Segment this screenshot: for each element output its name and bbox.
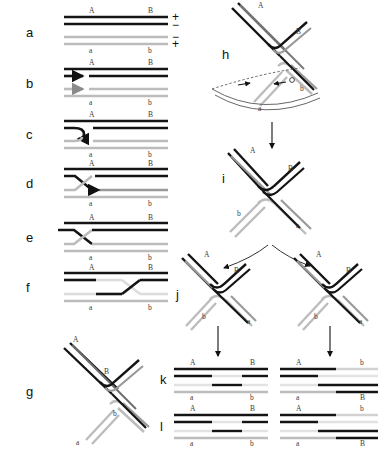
panel-e-label-A: A bbox=[89, 214, 94, 222]
panel-i-label-b: b bbox=[237, 210, 241, 218]
panel-h-label-a: a bbox=[258, 105, 261, 113]
panel-a-label-A: A bbox=[89, 7, 94, 15]
panel-label-d: d bbox=[26, 177, 33, 190]
panel-a-strands bbox=[64, 17, 168, 44]
panel-j-right-chi bbox=[294, 254, 368, 330]
panel-c-label-B: B bbox=[148, 111, 153, 119]
panel-d-label-b: b bbox=[148, 200, 152, 208]
panel-d-strands bbox=[64, 169, 168, 197]
panel-e-label-b: b bbox=[148, 254, 152, 262]
panel-i-label-a: a bbox=[296, 222, 299, 230]
panel-label-e: e bbox=[26, 231, 33, 244]
panel-g-label-A: A bbox=[73, 336, 78, 344]
panel-d-label-a: a bbox=[89, 200, 92, 208]
panel-k-left-label-a: a bbox=[190, 394, 193, 402]
panel-e-strands bbox=[58, 223, 168, 251]
panel-k-right-strands bbox=[280, 369, 378, 392]
panel-l-left-strands bbox=[174, 415, 268, 438]
panel-e-label-B: B bbox=[148, 214, 153, 222]
panel-label-f: f bbox=[26, 281, 30, 294]
panel-l-right-label-B: b bbox=[360, 405, 364, 413]
panel-d-label-A: A bbox=[89, 160, 94, 168]
panel-b-label-B: B bbox=[148, 59, 153, 67]
panel-c-label-a: a bbox=[89, 151, 92, 159]
panel-l-left-label-A: A bbox=[190, 405, 195, 413]
panel-c-strands bbox=[64, 121, 168, 148]
panel-a-label-B: B bbox=[148, 7, 153, 15]
panel-c-label-b: b bbox=[148, 151, 152, 159]
panel-g-label-B: B bbox=[104, 368, 109, 376]
panel-k-right-label-B: b bbox=[360, 359, 364, 367]
panel-label-i: i bbox=[222, 172, 225, 185]
panel-a-label-a: a bbox=[89, 47, 92, 55]
panel-f-strands bbox=[64, 273, 168, 301]
panel-b-label-A: A bbox=[89, 59, 94, 67]
recombination-figure: a b c d e f g h i j k l A B a b + − − + … bbox=[0, 0, 386, 451]
panel-l-left-label-a: a bbox=[190, 440, 193, 448]
panel-label-k: k bbox=[160, 373, 167, 386]
panel-i-label-A: A bbox=[250, 147, 255, 155]
panel-l-left-label-B: B bbox=[250, 405, 255, 413]
panel-g-chi bbox=[64, 343, 149, 444]
panel-h-label-b: b bbox=[300, 85, 304, 93]
panel-f-label-b: b bbox=[148, 304, 152, 312]
panel-l-right-strands bbox=[280, 415, 378, 438]
panel-label-c: c bbox=[26, 128, 33, 141]
panel-c-label-A: A bbox=[89, 111, 94, 119]
panel-j-left-label-A: A bbox=[204, 251, 209, 259]
panel-l-left-label-b: b bbox=[250, 440, 254, 448]
panel-i-label-B: B bbox=[288, 165, 293, 173]
panel-e-label-a: a bbox=[89, 254, 92, 262]
arrows-i-to-j bbox=[224, 245, 310, 268]
panel-label-g: g bbox=[26, 385, 33, 398]
panel-l-right-label-A: A bbox=[296, 405, 301, 413]
panel-g-label-b: b bbox=[113, 410, 117, 418]
panel-j-right-label-b: b bbox=[314, 313, 318, 321]
panel-h-label-B: B bbox=[296, 28, 301, 36]
panel-b-label-a: a bbox=[89, 99, 92, 107]
panel-f-label-A: A bbox=[89, 264, 94, 272]
figure-linework bbox=[0, 0, 386, 451]
panel-j-right-label-B: B bbox=[346, 267, 351, 275]
panel-label-b: b bbox=[26, 77, 33, 90]
panel-b-label-b: b bbox=[148, 99, 152, 107]
panel-label-l: l bbox=[160, 420, 163, 433]
panel-k-left-label-A: A bbox=[190, 359, 195, 367]
panel-l-right-label-b: B bbox=[360, 440, 365, 448]
panel-j-right-label-a: a bbox=[359, 318, 362, 326]
panel-j-left-chi bbox=[182, 254, 256, 330]
panel-l-right-label-a: a bbox=[296, 440, 299, 448]
panel-k-right-label-b: B bbox=[360, 394, 365, 402]
panel-a-label-b: b bbox=[148, 47, 152, 55]
panel-k-right-label-a: a bbox=[296, 394, 299, 402]
panel-j-left-label-a: a bbox=[247, 318, 250, 326]
panel-g-label-a: a bbox=[76, 439, 79, 447]
panel-k-left-strands bbox=[174, 369, 268, 392]
panel-d-label-B: B bbox=[148, 160, 153, 168]
panel-label-j: j bbox=[176, 288, 179, 301]
panel-h-label-A: A bbox=[258, 2, 263, 10]
polarity-sign-4: + bbox=[172, 38, 179, 50]
panel-label-a: a bbox=[26, 26, 33, 39]
panel-k-left-label-B: B bbox=[250, 359, 255, 367]
panel-f-label-B: B bbox=[148, 264, 153, 272]
panel-j-right-label-A: A bbox=[316, 251, 321, 259]
panel-f-label-a: a bbox=[89, 304, 92, 312]
panel-b-strands bbox=[64, 69, 168, 96]
panel-k-right-label-A: A bbox=[296, 359, 301, 367]
panel-j-left-label-B: B bbox=[234, 267, 239, 275]
panel-k-left-label-b: b bbox=[250, 394, 254, 402]
panel-label-h: h bbox=[222, 48, 229, 61]
panel-j-left-label-b: b bbox=[202, 313, 206, 321]
